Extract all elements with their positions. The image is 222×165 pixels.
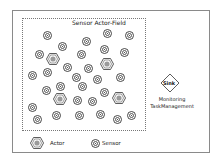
- sensor-node-icon: [84, 64, 93, 73]
- sensor-node-icon: [28, 71, 37, 80]
- sensor-node-icon: [113, 115, 122, 124]
- monitoring-label: Monitoring TaskManagement: [150, 96, 194, 109]
- sensor-node-icon: [93, 75, 102, 84]
- actor-node-icon: [100, 58, 114, 70]
- sensor-node-icon: [42, 86, 51, 95]
- field-title: Sensor Actor-Field: [72, 19, 126, 26]
- sensor-node-icon: [58, 42, 67, 51]
- sink-label: Sink: [163, 80, 175, 86]
- sensor-node-icon: [52, 111, 61, 120]
- actor-node-icon: [46, 53, 60, 65]
- sensor-node-icon: [82, 37, 91, 46]
- sensor-node-icon: [77, 50, 86, 59]
- sensor-node-icon: [63, 63, 72, 72]
- sensor-node-icon: [43, 68, 52, 77]
- sensor-node-icon: [73, 96, 82, 105]
- sensor-node-icon: [100, 88, 109, 97]
- sensor-node-icon: [116, 73, 125, 82]
- sensor-node-icon: [103, 29, 112, 38]
- actor-node-icon: [112, 92, 126, 104]
- sensor-node-icon: [35, 50, 44, 59]
- sensor-node-icon: [100, 45, 109, 54]
- legend-sensor-label: Sensor: [102, 140, 121, 146]
- legend-actor-icon: [30, 137, 44, 149]
- sensor-node-icon: [43, 31, 52, 40]
- sensor-node-icon: [78, 82, 87, 91]
- monitoring-line2: TaskManagement: [150, 103, 194, 110]
- sensor-node-icon: [72, 73, 81, 82]
- sensor-node-icon: [28, 103, 37, 112]
- sensor-node-icon: [33, 115, 42, 124]
- actor-node-icon: [53, 93, 67, 105]
- sensor-node-icon: [127, 111, 136, 120]
- sensor-node-icon: [96, 110, 105, 119]
- sensor-node-icon: [120, 48, 129, 57]
- sensor-node-icon: [88, 97, 97, 106]
- legend-actor-label: Actor: [50, 140, 64, 146]
- sensor-node-icon: [125, 31, 134, 40]
- legend-sensor-icon: [91, 139, 100, 148]
- sensor-node-icon: [75, 111, 84, 120]
- sensor-node-icon: [56, 82, 65, 91]
